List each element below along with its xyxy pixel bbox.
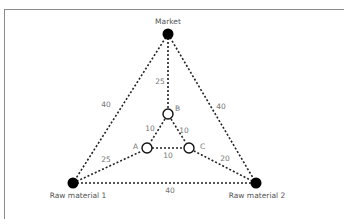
node-market [163, 29, 174, 40]
weight-a-c: 10 [163, 151, 173, 160]
weight-market-b: 25 [155, 77, 165, 86]
weight-raw1-raw2: 40 [165, 186, 175, 195]
weight-raw1-a: 25 [101, 155, 111, 164]
node-b [163, 109, 173, 119]
node-c [184, 143, 194, 153]
weight-raw2-c: 20 [220, 154, 230, 163]
label-raw-material-1: Raw material 1 [50, 191, 107, 200]
weight-market-raw1: 40 [101, 100, 111, 109]
weight-b-c: 10 [179, 126, 189, 135]
label-market: Market [155, 17, 181, 26]
node-raw-material-2 [251, 178, 262, 189]
node-raw-material-1 [68, 178, 79, 189]
weight-market-raw2: 40 [216, 102, 226, 111]
label-c: C [200, 142, 205, 151]
label-raw-material-2: Raw material 2 [229, 191, 286, 200]
label-b: B [175, 104, 180, 113]
node-a [142, 143, 152, 153]
weight-a-b: 10 [145, 124, 155, 133]
label-a: A [133, 142, 139, 151]
